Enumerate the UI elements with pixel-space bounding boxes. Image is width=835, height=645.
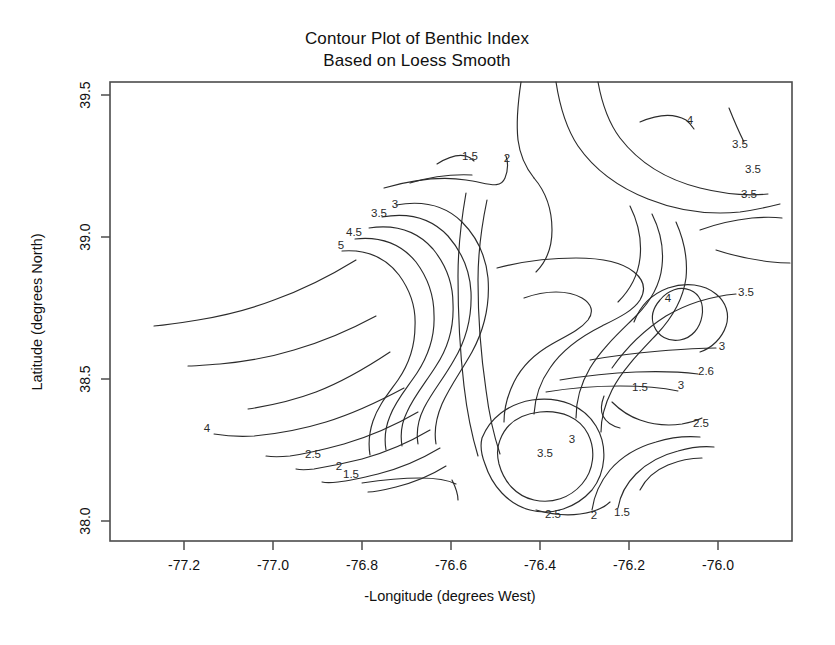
contour-label: 3: [719, 340, 725, 352]
contour-label: 2.5: [305, 448, 321, 460]
contour-label: 3.5: [371, 207, 387, 219]
chart-subtitle: Based on Loess Smooth: [323, 51, 510, 70]
contour-label: 2.6: [698, 365, 714, 377]
contour-label: 4: [204, 422, 211, 434]
y-tick-label: 39.5: [77, 81, 93, 108]
x-tick-label: -76.6: [435, 557, 467, 573]
x-tick-label: -77.0: [257, 557, 289, 573]
contour-label: 1.5: [462, 150, 478, 162]
contour-label: 3: [392, 198, 398, 210]
x-tick-label: -76.4: [524, 557, 556, 573]
contour-label: 2: [336, 460, 342, 472]
y-tick-label: 38.5: [77, 365, 93, 392]
y-tick-label: 39.0: [77, 223, 93, 250]
chart-title: Contour Plot of Benthic Index: [305, 29, 529, 48]
x-tick-label: -77.2: [168, 557, 200, 573]
contour-label: 1.5: [343, 468, 359, 480]
contour-label: 2: [504, 152, 510, 164]
contour-label: 5: [338, 239, 344, 251]
contour-label: 2: [591, 509, 597, 521]
contour-label: 4.5: [346, 226, 362, 238]
contour-label: 3: [678, 379, 684, 391]
y-tick-label: 38.0: [77, 507, 93, 534]
figure-background: [0, 0, 835, 645]
contour-label: 3: [569, 433, 575, 445]
x-tick-label: -76.2: [613, 557, 645, 573]
contour-label: 4: [687, 114, 694, 126]
x-axis-title: -Longitude (degrees West): [364, 588, 535, 604]
contour-label: 3.5: [732, 138, 748, 150]
contour-label: 3.5: [738, 286, 754, 298]
contour-label: 3.5: [741, 188, 757, 200]
contour-label: 2.5: [693, 417, 709, 429]
contour-label: 2.5: [545, 508, 561, 520]
x-tick-label: -76.0: [702, 557, 734, 573]
x-tick-label: -76.8: [346, 557, 378, 573]
contour-label: 1.5: [614, 506, 630, 518]
y-axis-title: Latitude (degrees North): [29, 233, 45, 390]
contour-plot-figure: Contour Plot of Benthic Index Based on L…: [0, 0, 835, 645]
contour-label: 1.5: [632, 381, 648, 393]
contour-label: 3.5: [537, 447, 553, 459]
contour-label: 4: [665, 292, 672, 304]
contour-label: 3.5: [745, 163, 761, 175]
